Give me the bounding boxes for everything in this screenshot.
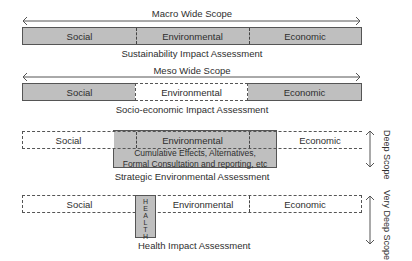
very-deep-scope-vertical-double-arrow-icon	[0, 0, 412, 261]
very-deep-scope-label: Very Deep Scope	[382, 190, 392, 260]
